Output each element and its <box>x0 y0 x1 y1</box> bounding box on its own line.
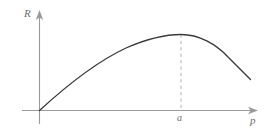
y-axis-label: R <box>24 8 31 19</box>
x-axis <box>22 107 258 114</box>
plot-area <box>0 0 269 134</box>
revenue-curve-figure: R p a <box>0 0 269 134</box>
y-axis <box>36 10 43 124</box>
x-axis-label: p <box>250 115 256 126</box>
x-tick-label-a: a <box>177 113 182 123</box>
revenue-curve-line <box>40 35 251 111</box>
